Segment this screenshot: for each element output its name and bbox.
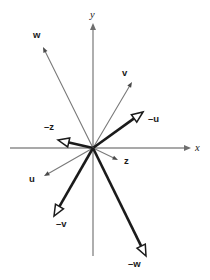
vector-label-minus-w: –w (128, 258, 141, 269)
vector-label-v: v (122, 67, 128, 78)
vector-v: v (93, 67, 132, 148)
vector-minus-u: –u (93, 112, 159, 148)
y-axis-arrowhead (90, 23, 96, 30)
vector-w: w (32, 29, 93, 148)
vector-label-u: u (29, 173, 35, 184)
vector-label-z: z (124, 155, 129, 166)
vectors-group: wv–u–zzu–v–w (29, 29, 159, 269)
vector-shaft-minus-w (93, 148, 142, 247)
vector-label-minus-v: –v (56, 218, 67, 229)
vector-shaft-v (93, 86, 130, 148)
vector-shaft-w (45, 51, 93, 148)
vector-minus-z: –z (44, 121, 93, 148)
vector-arrowhead-v (127, 82, 132, 88)
vector-label-minus-z: –z (44, 121, 54, 132)
vector-arrowhead-w (43, 47, 47, 53)
vector-diagram-figure: x y wv–u–zzu–v–w (0, 0, 210, 280)
vector-arrowhead-u (44, 171, 50, 176)
vector-arrowhead-minus-w (137, 244, 146, 256)
vector-arrowhead-z (112, 156, 118, 160)
vector-diagram-canvas: x y wv–u–zzu–v–w (0, 0, 210, 280)
axes-group: x y (10, 9, 200, 256)
vector-minus-v: –v (54, 148, 93, 229)
vector-arrowhead-minus-z (58, 138, 70, 147)
vector-label-w: w (32, 29, 41, 40)
vector-label-minus-u: –u (148, 113, 159, 124)
vector-minus-w: –w (93, 148, 146, 269)
vector-shaft-minus-u (93, 118, 135, 148)
y-axis-label: y (89, 9, 95, 20)
vector-shaft-minus-z (68, 142, 93, 148)
vector-arrowhead-minus-v (54, 204, 63, 216)
x-axis-arrowhead (184, 145, 191, 151)
x-axis-label: x (194, 142, 200, 153)
vector-shaft-minus-v (59, 148, 93, 207)
